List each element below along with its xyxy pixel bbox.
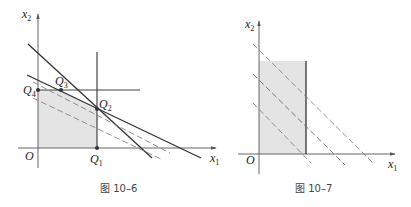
figure-caption: 图 10–6 (100, 183, 137, 194)
origin-label: O (25, 149, 34, 163)
label-q4: Q4 (23, 83, 36, 99)
label-q2: Q2 (99, 97, 112, 113)
x2-axis-label: x2 (21, 7, 31, 23)
x1-axis-label: x1 (209, 151, 219, 167)
origin-label: O (246, 153, 255, 167)
x1-axis-label: x1 (387, 157, 397, 173)
point-q4 (36, 88, 40, 92)
point-q3 (59, 88, 63, 92)
x2-axis-label: x2 (244, 17, 254, 33)
figure-caption: 图 10–7 (295, 183, 332, 194)
label-q1: Q1 (90, 152, 103, 168)
point-q1 (95, 146, 99, 150)
label-q3: Q3 (55, 74, 68, 90)
figure-10-7: x2 x1 O 图 10–7 (238, 17, 397, 194)
figure-10-6: x2 x1 O Q1 Q2 Q3 Q4 图 10–6 (18, 7, 219, 194)
feasible-region (259, 61, 306, 154)
